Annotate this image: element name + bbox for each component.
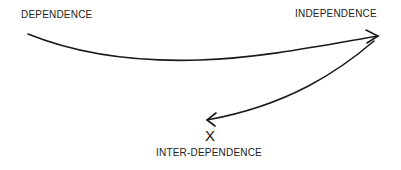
arrow-dependence-to-independence <box>28 34 378 60</box>
arrow-independence-to-inter-dependence <box>207 41 374 120</box>
diagram-arrows <box>0 0 401 170</box>
